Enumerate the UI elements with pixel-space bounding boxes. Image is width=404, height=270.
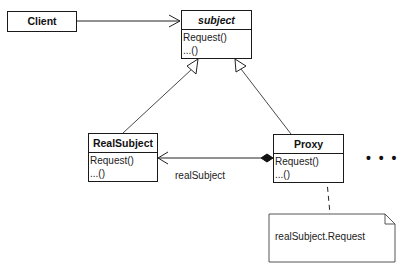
class-name: Proxy bbox=[274, 135, 343, 154]
filled-diamond-icon bbox=[261, 154, 273, 162]
composition-proxy-realsubject bbox=[158, 152, 273, 164]
operation: ...() bbox=[275, 168, 342, 181]
operations-list: Request() ...() bbox=[274, 154, 343, 181]
hollow-triangle-icon bbox=[235, 59, 246, 72]
operation: ...() bbox=[90, 167, 156, 180]
generalization-proxy-subject bbox=[235, 59, 291, 134]
generalization-realsubject-subject bbox=[123, 59, 198, 133]
class-name: subject bbox=[182, 11, 251, 30]
class-client: Client bbox=[7, 11, 77, 32]
association-client-subject bbox=[77, 15, 180, 27]
operation: ...() bbox=[183, 44, 250, 57]
class-name: Client bbox=[27, 15, 56, 27]
operations-list: Request() ...() bbox=[182, 30, 251, 57]
ellipsis-indicator: • • • bbox=[366, 150, 398, 166]
note-text: realSubject.Request bbox=[275, 231, 365, 242]
operation: Request() bbox=[275, 155, 342, 168]
operation: Request() bbox=[183, 31, 250, 44]
class-name: RealSubject bbox=[89, 134, 157, 153]
operation: Request() bbox=[90, 154, 156, 167]
class-proxy: Proxy Request() ...() bbox=[273, 134, 344, 183]
association-label: realSubject bbox=[175, 170, 225, 181]
class-realsubject: RealSubject Request() ...() bbox=[88, 133, 158, 182]
operations-list: Request() ...() bbox=[89, 153, 157, 180]
class-subject: subject Request() ...() bbox=[181, 10, 252, 59]
